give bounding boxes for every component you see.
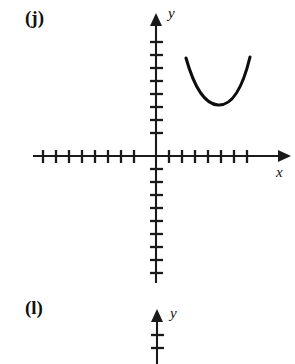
y-axis-arrow-icon-j (150, 13, 162, 26)
parabola-curve-j (186, 57, 250, 105)
x-axis-label-j: x (276, 165, 283, 180)
y-axis-arrow-icon-l (151, 309, 163, 322)
coordinate-plane-j (0, 0, 295, 292)
panel-l: (l) y (0, 292, 295, 364)
x-axis-arrow-icon-j (278, 150, 291, 162)
figure-root: (j) (0, 0, 295, 364)
y-axis-label-j: y (168, 6, 175, 21)
panel-j: (j) (0, 0, 295, 292)
coordinate-plane-l (0, 292, 295, 364)
y-axis-label-l: y (170, 306, 177, 321)
